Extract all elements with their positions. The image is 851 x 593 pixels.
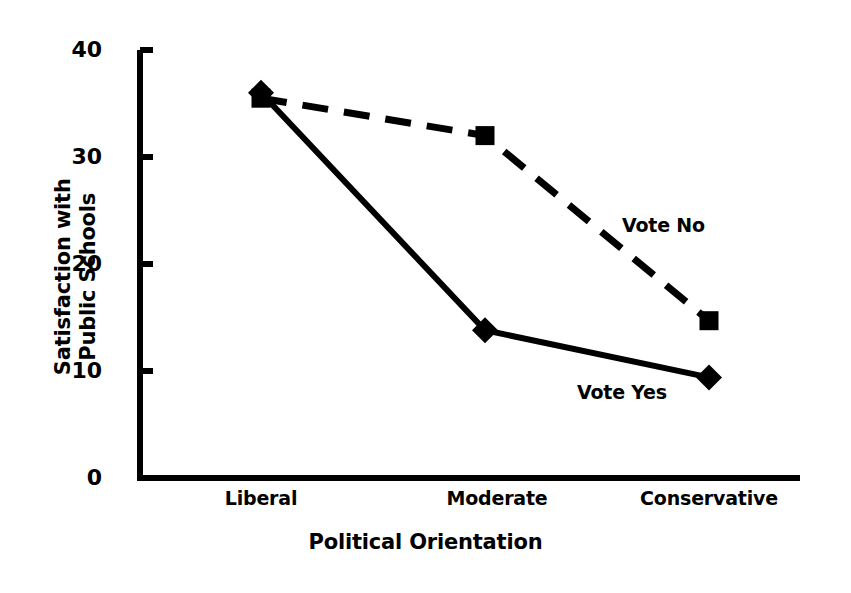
data-point-vote-yes-conservative xyxy=(696,364,722,390)
x-tick-label-conservative: Conservative xyxy=(594,487,824,509)
axis-spine xyxy=(140,50,800,478)
series-annotation-vote-no: Vote No xyxy=(622,214,705,236)
x-axis-title: Political Orientation xyxy=(0,530,851,554)
line-chart: Satisfaction with Public Schools 40 30 2… xyxy=(0,0,851,593)
series-annotation-vote-yes: Vote Yes xyxy=(577,381,667,403)
series-markers-vote-no xyxy=(252,89,719,331)
series-vote-no xyxy=(252,89,719,331)
data-point-vote-no-moderate xyxy=(476,126,495,145)
x-tick-label-liberal: Liberal xyxy=(146,487,376,509)
x-tick-label-moderate: Moderate xyxy=(382,487,612,509)
data-point-vote-no-conservative xyxy=(700,311,719,330)
